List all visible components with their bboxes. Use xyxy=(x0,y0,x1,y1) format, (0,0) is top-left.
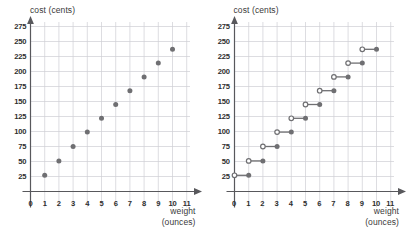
y-tick-label: 75 xyxy=(3,142,27,151)
y-tick-label: 100 xyxy=(206,127,230,136)
y-tick-label: 275 xyxy=(3,22,27,31)
gridlines-horizontal xyxy=(31,27,191,177)
x-axis-arrow xyxy=(398,188,406,195)
open-endpoint xyxy=(246,159,251,164)
x-tick-label: 0 xyxy=(227,199,241,208)
x-axis-title-line2: (ounces) xyxy=(365,217,399,228)
data-point xyxy=(127,88,132,93)
closed-endpoint xyxy=(274,144,279,149)
step-chart-right: 2550751001251501752002252502750123456789… xyxy=(204,0,407,242)
x-tick-label: 3 xyxy=(270,199,284,208)
x-axis-title: weight(ounces) xyxy=(365,206,399,228)
y-tick-label: 200 xyxy=(206,67,230,76)
data-layer xyxy=(42,47,175,178)
x-axis-title: weight(ounces) xyxy=(162,206,196,228)
x-axis-title-line1: weight xyxy=(365,206,399,217)
y-tick-label: 225 xyxy=(206,52,230,61)
data-point xyxy=(142,74,147,79)
x-tick-label: 7 xyxy=(123,199,137,208)
x-tick-label: 0 xyxy=(24,199,38,208)
x-tick-label: 7 xyxy=(326,199,340,208)
open-endpoint xyxy=(360,47,365,52)
open-endpoint xyxy=(232,173,237,178)
y-tick-label: 250 xyxy=(3,37,27,46)
closed-endpoint xyxy=(246,173,251,178)
data-point xyxy=(85,130,90,135)
closed-endpoint xyxy=(331,88,336,93)
x-tick-label: 8 xyxy=(137,199,151,208)
x-tick-label: 6 xyxy=(109,199,123,208)
y-tick-label: 50 xyxy=(3,157,27,166)
y-axis-title: cost (cents) xyxy=(234,5,279,15)
gridlines-vertical xyxy=(45,22,187,208)
x-tick-label: 4 xyxy=(284,199,298,208)
y-tick-label: 25 xyxy=(3,172,27,181)
closed-endpoint xyxy=(345,74,350,79)
x-tick-label: 5 xyxy=(298,199,312,208)
y-tick-label: 75 xyxy=(206,142,230,151)
open-endpoint xyxy=(260,144,265,149)
data-point xyxy=(71,144,76,149)
open-endpoint xyxy=(317,88,322,93)
closed-endpoint xyxy=(303,116,308,121)
x-tick-label: 1 xyxy=(241,199,255,208)
open-endpoint xyxy=(331,75,336,80)
x-axis-title-line1: weight xyxy=(162,206,196,217)
data-point xyxy=(42,173,47,178)
open-endpoint xyxy=(303,102,308,107)
y-tick-label: 100 xyxy=(3,127,27,136)
x-tick-label: 4 xyxy=(80,199,94,208)
y-tick-label: 150 xyxy=(206,97,230,106)
y-tick-label: 175 xyxy=(3,82,27,91)
y-tick-label: 125 xyxy=(3,112,27,121)
y-axis-arrow xyxy=(27,16,34,24)
data-point xyxy=(99,116,104,121)
y-tick-label: 125 xyxy=(206,112,230,121)
y-tick-label: 200 xyxy=(3,67,27,76)
y-tick-label: 175 xyxy=(206,82,230,91)
axes xyxy=(226,16,406,208)
x-tick-label: 8 xyxy=(341,199,355,208)
closed-endpoint xyxy=(260,158,265,163)
x-tick-label: 5 xyxy=(95,199,109,208)
data-point xyxy=(156,61,161,66)
x-tick-label: 3 xyxy=(66,199,80,208)
y-tick-label: 225 xyxy=(3,52,27,61)
y-tick-label: 275 xyxy=(206,22,230,31)
y-tick-label: 150 xyxy=(3,97,27,106)
data-point xyxy=(56,158,61,163)
open-endpoint xyxy=(274,130,279,135)
data-point xyxy=(113,102,118,107)
closed-endpoint xyxy=(317,102,322,107)
axes xyxy=(23,16,203,208)
y-axis-title: cost (cents) xyxy=(30,5,75,15)
y-tick-label: 50 xyxy=(206,157,230,166)
y-axis-arrow xyxy=(231,16,238,24)
chart-pair: 2550751001251501752002252502750123456789… xyxy=(0,0,407,242)
open-endpoint xyxy=(289,116,294,121)
closed-endpoint xyxy=(359,61,364,66)
x-axis-arrow xyxy=(194,188,202,195)
x-tick-label: 6 xyxy=(312,199,326,208)
closed-endpoint xyxy=(288,130,293,135)
data-point xyxy=(170,47,175,52)
x-tick-label: 2 xyxy=(255,199,269,208)
x-axis-title-line2: (ounces) xyxy=(162,217,196,228)
y-tick-label: 250 xyxy=(206,37,230,46)
open-endpoint xyxy=(345,61,350,66)
x-tick-label: 2 xyxy=(52,199,66,208)
y-tick-label: 25 xyxy=(206,172,230,181)
scatter-chart-left: 2550751001251501752002252502750123456789… xyxy=(0,0,204,242)
closed-endpoint xyxy=(374,47,379,52)
x-tick-label: 1 xyxy=(38,199,52,208)
